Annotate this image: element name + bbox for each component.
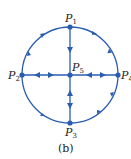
- label-p1: P1: [64, 12, 77, 26]
- phase-portrait-diagram: P1 P2 P3 P4 P5 (b): [0, 0, 131, 159]
- node-p3: [67, 120, 72, 125]
- figure-caption: (b): [58, 142, 74, 155]
- label-p4: P4: [120, 69, 131, 83]
- label-p5: P5: [71, 61, 84, 75]
- node-p4: [115, 72, 120, 77]
- node-p2: [19, 72, 24, 77]
- label-p3: P3: [64, 126, 77, 140]
- label-p2: P2: [7, 69, 20, 83]
